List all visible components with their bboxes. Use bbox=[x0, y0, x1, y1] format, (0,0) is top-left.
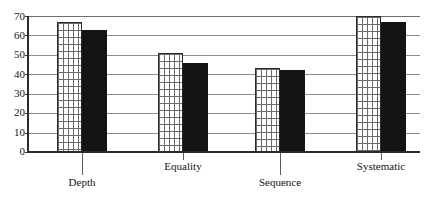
x-axis-label-equality: Equality bbox=[164, 160, 201, 172]
y-axis-tick-label: 70 bbox=[3, 11, 25, 22]
axis-frame bbox=[27, 16, 420, 153]
y-axis: 70 60 50 40 30 20 10 0 bbox=[0, 0, 25, 152]
x-tick-systematic bbox=[381, 153, 382, 160]
x-axis-label-depth: Depth bbox=[69, 176, 96, 188]
y-axis-tick-label: 30 bbox=[3, 88, 25, 99]
x-tick-equality bbox=[183, 153, 184, 160]
x-axis-label-sequence: Sequence bbox=[259, 176, 301, 188]
bar-chart: 70 60 50 40 30 20 10 0 bbox=[0, 0, 432, 200]
y-axis-tick-label: 60 bbox=[3, 30, 25, 41]
y-axis-tick-label: 0 bbox=[3, 146, 25, 157]
y-axis-tick-label: 20 bbox=[3, 107, 25, 118]
x-tick-sequence bbox=[280, 153, 281, 175]
x-axis-label-systematic: Systematic bbox=[357, 160, 405, 172]
y-axis-tick-label: 50 bbox=[3, 49, 25, 60]
y-axis-tick-label: 10 bbox=[3, 127, 25, 138]
y-axis-tick-label: 40 bbox=[3, 69, 25, 80]
x-tick-depth bbox=[82, 153, 83, 175]
